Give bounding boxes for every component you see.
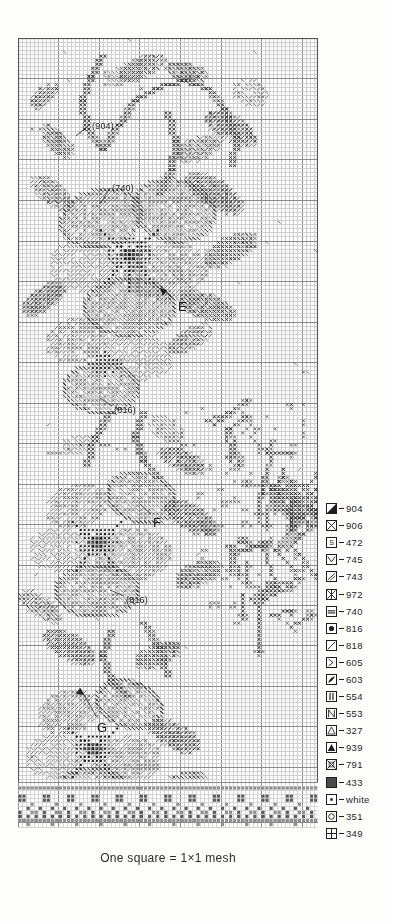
- chart-annotation-letter-f: F: [153, 516, 161, 529]
- legend-color-code: 327: [346, 725, 363, 736]
- chart-motif-layer: [18, 38, 318, 828]
- legend-row: white: [326, 791, 388, 808]
- legend-row: 351: [326, 808, 388, 825]
- diagonal-line-icon: [326, 640, 337, 651]
- chart-annotation-code-816-upper: (816): [114, 406, 136, 415]
- legend-row: 816: [326, 620, 388, 637]
- legend-color-code: 740: [346, 606, 363, 617]
- arrow-right-icon: [326, 657, 337, 668]
- legend-separator: [339, 594, 344, 595]
- cross-in-box-icon: [326, 520, 337, 531]
- legend-color-code: 553: [346, 708, 363, 719]
- chart-annotation-code-816-lower: (816): [126, 596, 148, 605]
- legend-color-code: 939: [346, 742, 363, 753]
- legend-row: 349: [326, 825, 388, 842]
- legend-separator: [339, 730, 344, 731]
- legend-color-code: 472: [346, 537, 363, 548]
- legend-row: 904: [326, 500, 388, 517]
- cross-stitch-chart: (904)(740)E(816)F(816)G: [18, 38, 318, 828]
- legend-row: 553: [326, 705, 388, 722]
- legend-row: 603: [326, 671, 388, 688]
- legend-separator: [339, 764, 344, 765]
- legend-color-code: 972: [346, 589, 363, 600]
- legend-color-code: 743: [346, 571, 363, 582]
- plus-cross-icon: [326, 828, 337, 839]
- legend-row: 605: [326, 654, 388, 671]
- chart-annotation-code-904: (904): [92, 122, 114, 131]
- legend-color-code: 906: [346, 520, 363, 531]
- legend-row: 743: [326, 568, 388, 585]
- color-legend: 904906S472745743972740816818605603554553…: [326, 500, 388, 842]
- diagonal-slash-pair-icon: [326, 571, 337, 582]
- legend-separator: [339, 816, 344, 817]
- legend-color-code: 351: [346, 811, 363, 822]
- legend-color-code: 904: [346, 503, 363, 514]
- legend-separator: [339, 799, 344, 800]
- legend-color-code: white: [346, 794, 370, 805]
- open-triangle-icon: [326, 725, 337, 736]
- legend-separator: [339, 782, 344, 783]
- legend-separator: [339, 508, 344, 509]
- pattern-page: (904)(740)E(816)F(816)G One square = 1×1…: [0, 0, 393, 922]
- legend-separator: [339, 559, 344, 560]
- half-filled-triangle-icon: [326, 503, 337, 514]
- legend-row: 972: [326, 585, 388, 602]
- chart-annotation-letter-g: G: [97, 721, 107, 734]
- legend-separator: [339, 525, 344, 526]
- legend-separator: [339, 628, 344, 629]
- leaf-swirl-icon: [326, 674, 337, 685]
- legend-row: S472: [326, 534, 388, 551]
- legend-row: 818: [326, 637, 388, 654]
- filled-triangle-icon: [326, 742, 337, 753]
- legend-separator: [339, 542, 344, 543]
- legend-color-code: 349: [346, 828, 363, 839]
- boxed-x-icon: [326, 759, 337, 770]
- chevron-down-icon: [326, 554, 337, 565]
- solid-square-icon: [326, 777, 337, 788]
- center-dot-icon: [326, 794, 337, 805]
- legend-color-code: 791: [346, 759, 363, 770]
- legend-color-code: 816: [346, 623, 363, 634]
- legend-separator: [339, 662, 344, 663]
- backslash-n-icon: [326, 708, 337, 719]
- filled-circle-icon: [326, 623, 337, 634]
- open-circle-icon: [326, 811, 337, 822]
- legend-separator: [339, 576, 344, 577]
- double-vertical-bars-icon: [326, 691, 337, 702]
- star-asterisk-icon: [326, 589, 337, 600]
- legend-row: 740: [326, 603, 388, 620]
- legend-separator: [339, 696, 344, 697]
- chart-annotation-letter-e: E: [178, 300, 187, 313]
- legend-color-code: 818: [346, 640, 363, 651]
- legend-color-code: 554: [346, 691, 363, 702]
- legend-row: 554: [326, 688, 388, 705]
- chart-annotation-code-740: (740): [112, 184, 134, 193]
- legend-separator: [339, 747, 344, 748]
- chart-border-pattern: [18, 782, 318, 828]
- legend-separator: [339, 645, 344, 646]
- legend-color-code: 605: [346, 657, 363, 668]
- legend-color-code: 433: [346, 777, 363, 788]
- legend-separator: [339, 713, 344, 714]
- legend-row: 745: [326, 551, 388, 568]
- legend-row: 906: [326, 517, 388, 534]
- legend-row: 327: [326, 722, 388, 739]
- legend-separator: [339, 833, 344, 834]
- legend-separator: [339, 611, 344, 612]
- equals-bar-icon: [326, 606, 337, 617]
- legend-row: 939: [326, 739, 388, 756]
- legend-color-code: 745: [346, 554, 363, 565]
- legend-row: 433: [326, 774, 388, 791]
- legend-color-code: 603: [346, 674, 363, 685]
- legend-separator: [339, 679, 344, 680]
- legend-row: 791: [326, 756, 388, 773]
- letter-s-icon: S: [326, 537, 337, 548]
- chart-caption: One square = 1×1 mesh: [18, 851, 318, 865]
- svg-text:S: S: [329, 539, 334, 546]
